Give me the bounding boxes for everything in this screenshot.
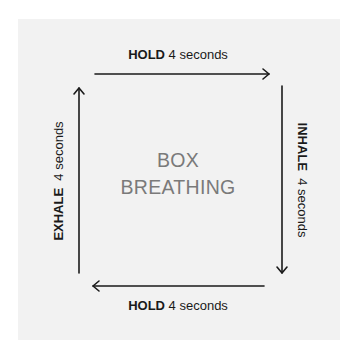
title-line-1: BOX xyxy=(0,148,356,172)
step-bottom-duration: 4 seconds xyxy=(169,298,228,313)
title-line-2: BREATHING xyxy=(0,175,356,199)
step-top-duration: 4 seconds xyxy=(169,47,228,62)
step-bottom-label: HOLD 4 seconds xyxy=(0,298,356,313)
arrow-right-icon xyxy=(95,69,269,79)
step-top-action: HOLD xyxy=(128,47,165,62)
step-bottom-action: HOLD xyxy=(128,298,165,313)
step-top-label: HOLD 4 seconds xyxy=(0,47,356,62)
arrow-left-icon xyxy=(93,281,264,291)
